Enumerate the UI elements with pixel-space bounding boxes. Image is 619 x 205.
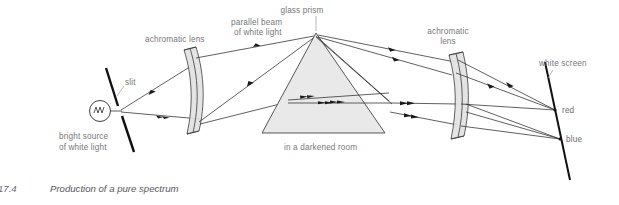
label-slit: slit (125, 78, 136, 87)
ray-arrowhead (404, 113, 412, 117)
glass-prism (262, 33, 385, 133)
ray-arrowhead (149, 90, 156, 95)
diverging-rays-to-lens (121, 63, 200, 119)
label-blue: blue (566, 135, 582, 144)
achromatic-lens-right (449, 52, 468, 139)
label-source-line2: of white light (59, 143, 107, 152)
light-source-bulb (90, 101, 111, 122)
ray-arrowhead (400, 101, 408, 105)
label-red: red (562, 106, 575, 115)
ray-arrowhead (487, 84, 495, 89)
caption-number: 17.4 (0, 183, 17, 194)
label-achromatic-lens-right-line2: lens (440, 37, 456, 46)
ray-arrowhead (392, 57, 400, 62)
figure-root: achromatic lens parallel beam of white l… (0, 0, 619, 205)
ray-arrowhead (162, 116, 170, 119)
blue-focus-point (559, 138, 562, 141)
label-glass-prism: glass prism (280, 6, 323, 15)
label-darkened-room: in a darkened room (284, 143, 357, 152)
label-white-screen: white screen (538, 59, 587, 68)
label-parallel-beam-line2: of white light (234, 28, 282, 37)
ray-arrowhead (388, 47, 396, 52)
label-achromatic-lens-right-line1: achromatic (427, 27, 469, 36)
label-achromatic-lens-left: achromatic lens (145, 35, 205, 44)
converging-rays-to-screen (456, 60, 560, 139)
ray-arrowhead (407, 101, 415, 105)
red-focus-point (554, 109, 557, 112)
optics-diagram: achromatic lens parallel beam of white l… (0, 0, 619, 205)
caption-text: Production of a pure spectrum (50, 183, 179, 194)
ray-arrowhead (247, 81, 254, 87)
label-parallel-beam-line1: parallel beam (231, 18, 282, 27)
label-source-line1: bright source (59, 132, 109, 141)
ray-arrowhead (411, 115, 419, 119)
white-screen (545, 62, 570, 180)
